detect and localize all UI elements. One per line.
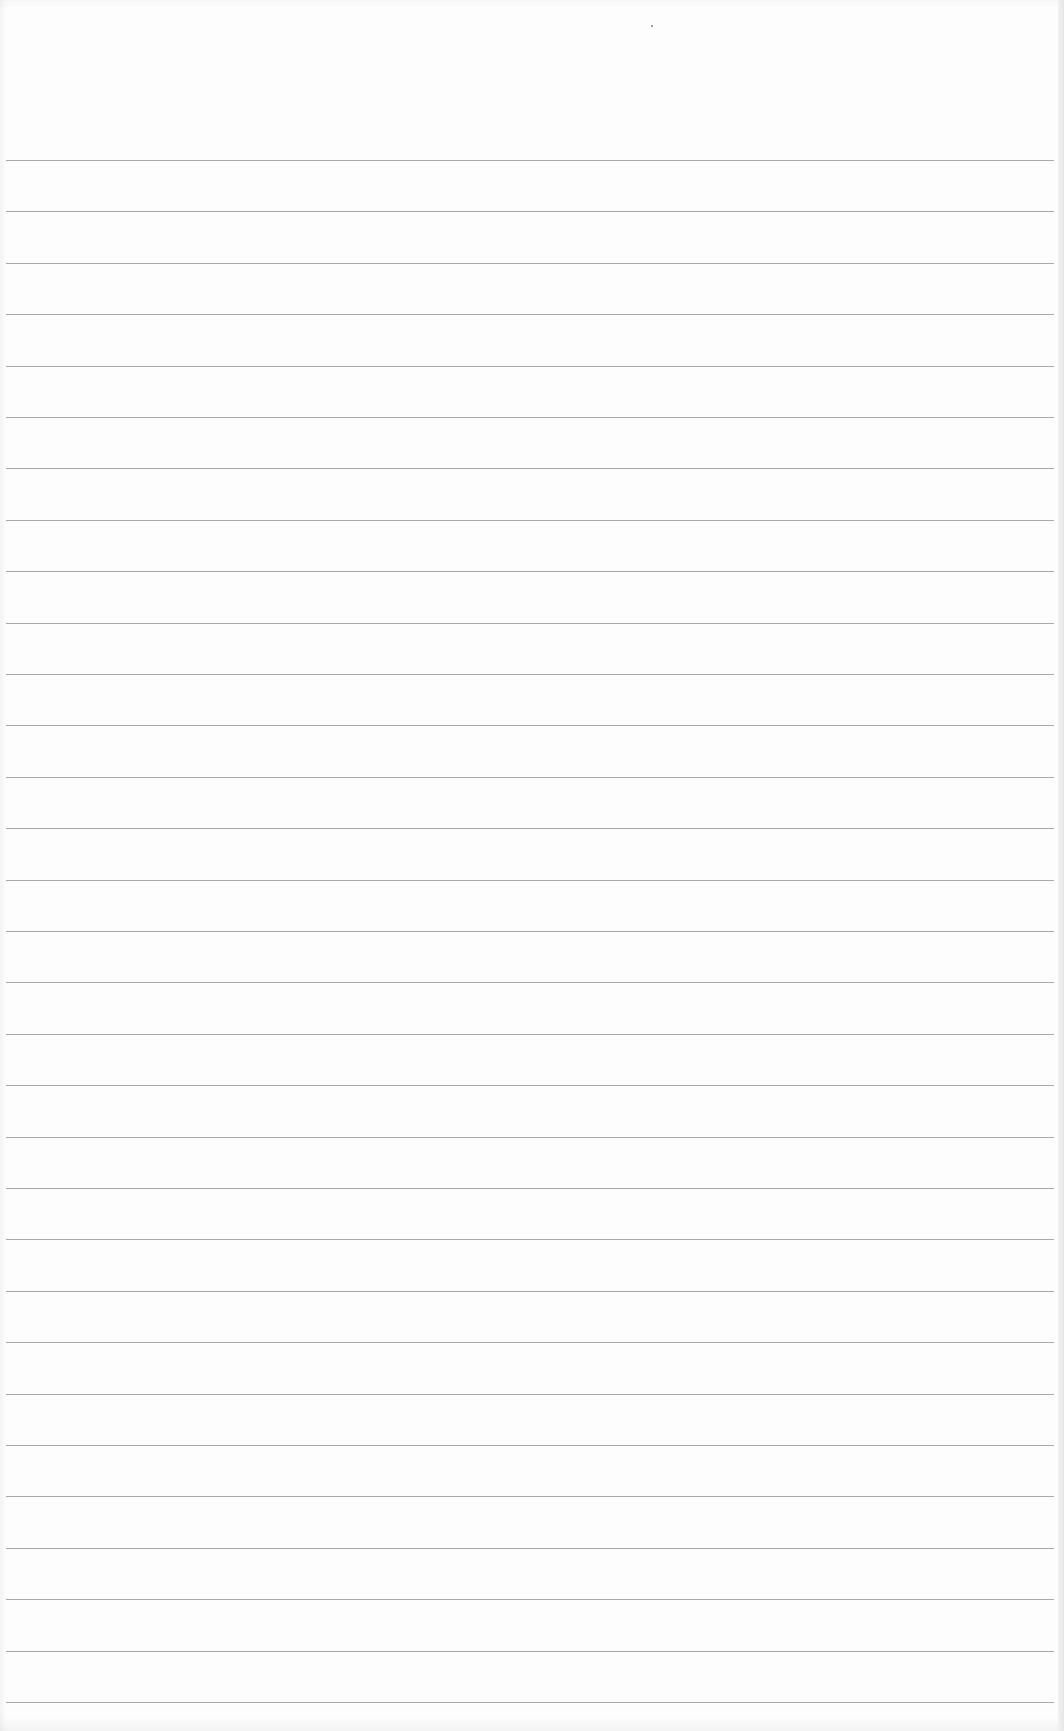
ruled-line [6,160,1054,161]
ruled-line [6,1394,1054,1395]
paper-edge [1058,0,1064,1731]
ruled-line [6,314,1054,315]
ruled-line [6,725,1054,726]
paper-speck [651,25,653,27]
ruled-line [6,571,1054,572]
ruled-line [6,623,1054,624]
ruled-line [6,674,1054,675]
ruled-line [6,1651,1054,1652]
ruled-line [6,982,1054,983]
lined-paper-sheet [0,0,1060,1731]
ruled-line [6,211,1054,212]
ruled-line [6,1548,1054,1549]
ruled-line [6,1188,1054,1189]
ruled-line [6,1342,1054,1343]
ruled-line [6,1239,1054,1240]
ruled-line [6,880,1054,881]
ruled-line [6,468,1054,469]
ruled-line [6,777,1054,778]
ruled-line [6,366,1054,367]
ruled-line [6,1137,1054,1138]
ruled-line [6,417,1054,418]
ruled-line [6,1085,1054,1086]
ruled-line [6,263,1054,264]
ruled-line [6,931,1054,932]
ruled-line [6,520,1054,521]
ruled-line [6,1034,1054,1035]
ruled-line [6,828,1054,829]
ruled-line [6,1702,1054,1703]
ruled-line [6,1445,1054,1446]
ruled-line [6,1291,1054,1292]
ruled-line [6,1496,1054,1497]
ruled-line [6,1599,1054,1600]
